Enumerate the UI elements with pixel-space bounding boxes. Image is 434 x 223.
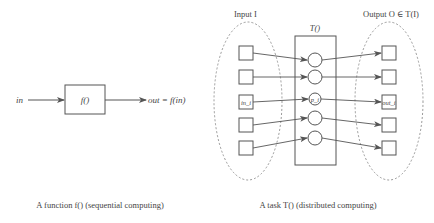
- edge-in1-p1: [253, 53, 307, 60]
- input-set-label: Input I: [234, 9, 257, 19]
- process-node-1: [308, 53, 322, 67]
- output-node-i-label: out_i: [382, 99, 396, 106]
- function-diagram: in f() out = f(in) A function f() (seque…: [16, 85, 186, 210]
- edge-pi-outi: [321, 99, 381, 102]
- edge-p5-out5: [322, 138, 381, 148]
- process-node-4: [308, 111, 322, 125]
- edge-in5-p5: [253, 138, 307, 148]
- input-node-1: [239, 46, 253, 60]
- task-diagram: Input I Output O ∈ T(I) T() in_i p_i: [214, 9, 423, 210]
- input-node-2: [239, 70, 253, 84]
- input-node-5: [239, 141, 253, 155]
- output-set-label: Output O ∈ T(I): [363, 9, 419, 19]
- input-node-i-label: in_i: [241, 99, 251, 106]
- task-label: T(): [310, 23, 321, 33]
- edge-p4-out4: [322, 118, 381, 125]
- function-output-label: out = f(in): [148, 95, 186, 105]
- diagram-canvas: in f() out = f(in) A function f() (seque…: [0, 0, 434, 223]
- output-node-1: [382, 46, 396, 60]
- process-node-2: [308, 70, 322, 84]
- task-caption: A task T() (distributed computing): [260, 200, 377, 210]
- process-node-i-label: p_i: [310, 96, 320, 103]
- process-node-5: [308, 131, 322, 145]
- edge-in4-p4: [253, 118, 307, 125]
- edge-p1-out1: [322, 53, 381, 60]
- function-input-label: in: [16, 95, 24, 105]
- output-node-5: [382, 141, 396, 155]
- output-node-4: [382, 118, 396, 132]
- edge-ini-pi: [253, 99, 308, 102]
- output-node-2: [382, 70, 396, 84]
- function-caption: A function f() (sequential computing): [36, 200, 164, 210]
- function-box-label: f(): [81, 95, 90, 105]
- input-node-4: [239, 118, 253, 132]
